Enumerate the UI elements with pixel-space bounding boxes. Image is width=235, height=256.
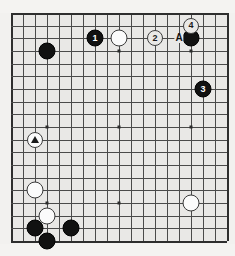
grid-line-horizontal xyxy=(11,114,227,115)
star-point xyxy=(190,50,193,53)
star-point xyxy=(46,126,49,129)
star-point xyxy=(118,202,121,205)
stone-black-move-3[interactable]: 3 xyxy=(195,81,212,98)
triangle-marked-white-stone[interactable] xyxy=(27,132,43,148)
marker-move-4[interactable]: 4 xyxy=(183,18,199,34)
grid-line-horizontal xyxy=(11,64,227,65)
stone-white[interactable] xyxy=(111,30,128,47)
star-point xyxy=(118,50,121,53)
grid-line-horizontal xyxy=(11,76,227,77)
stone-white[interactable] xyxy=(183,195,200,212)
go-board[interactable]: 1324A xyxy=(11,13,228,242)
marker-label: 2 xyxy=(152,34,157,43)
star-point xyxy=(118,126,121,129)
star-point xyxy=(190,126,193,129)
stone-move-number: 1 xyxy=(92,33,97,42)
stone-black-move-1[interactable]: 1 xyxy=(87,30,104,47)
triangle-icon xyxy=(31,136,39,143)
paper-margin-bottom xyxy=(0,244,235,256)
grid-line-horizontal xyxy=(11,102,227,103)
point-label-a[interactable]: A xyxy=(174,33,183,43)
marker-move-2[interactable]: 2 xyxy=(147,30,163,46)
grid-line-horizontal xyxy=(11,140,227,141)
paper-margin-top xyxy=(0,0,235,13)
star-point xyxy=(46,202,49,205)
grid-line-horizontal xyxy=(11,178,227,179)
stone-black[interactable] xyxy=(39,43,56,60)
stone-move-number: 3 xyxy=(200,84,205,93)
stone-black[interactable] xyxy=(39,233,56,250)
grid-line-horizontal xyxy=(11,152,227,153)
diagram-page: 1324A xyxy=(0,0,235,256)
stone-white[interactable] xyxy=(27,182,44,199)
grid-line-horizontal xyxy=(11,13,227,15)
marker-label: 4 xyxy=(188,21,193,30)
grid-line-horizontal xyxy=(11,165,227,166)
stone-black[interactable] xyxy=(63,220,80,237)
